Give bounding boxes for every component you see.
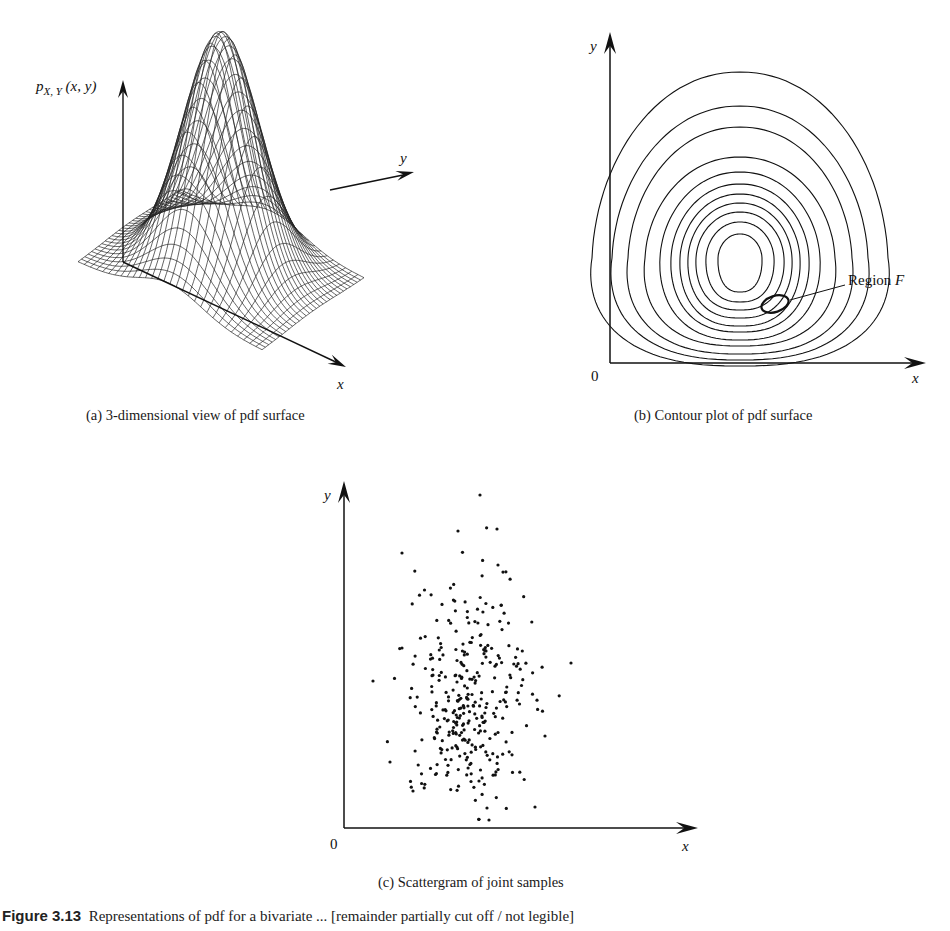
panel-c-scatter: y 0 x (c) Scattergram of joint samples [0, 0, 950, 931]
scatter-plot [0, 0, 950, 931]
panel-c-caption: (c) Scattergram of joint samples [378, 874, 564, 891]
scatter-origin-label: 0 [330, 836, 338, 853]
figure-caption: Figure 3.13 Representations of pdf for a… [2, 907, 574, 925]
scatter-axes [344, 495, 690, 828]
scatter-points [371, 493, 572, 821]
scatter-y-axis-label: y [324, 487, 331, 504]
scatter-x-axis-label: x [682, 838, 689, 855]
